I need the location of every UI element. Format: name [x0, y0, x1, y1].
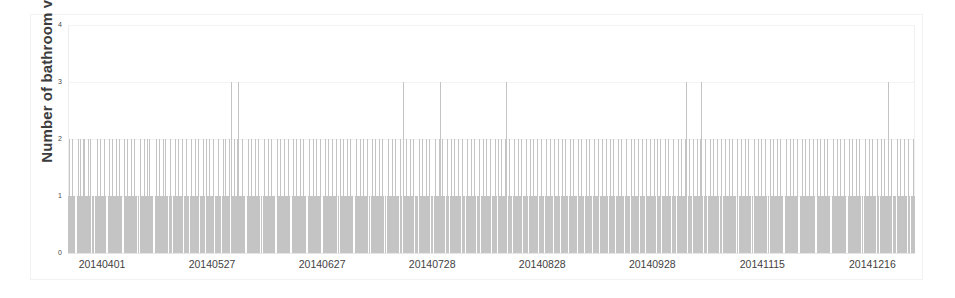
bar — [782, 196, 783, 253]
bar — [479, 139, 480, 253]
x-tick-label-20141216: 20141216 — [849, 258, 896, 270]
bar — [338, 196, 339, 253]
bar — [607, 196, 608, 253]
bar — [845, 196, 846, 253]
bar — [152, 196, 153, 253]
bar — [909, 196, 910, 253]
x-tick-label-20140928: 20140928 — [629, 258, 676, 270]
y-tick-label-1: 1 — [46, 192, 62, 199]
bar — [496, 196, 497, 253]
bar — [320, 139, 321, 253]
bar — [171, 196, 172, 253]
bar — [220, 196, 221, 253]
x-tick-label-20140828: 20140828 — [519, 258, 566, 270]
y-tick-label-4: 4 — [46, 21, 62, 28]
bar — [432, 196, 433, 253]
bar — [735, 196, 736, 253]
x-axis-tick-labels: 2014040120140527201406272014072820140828… — [68, 258, 915, 280]
bar — [766, 196, 767, 253]
bar — [543, 196, 544, 253]
x-tick-label-20140627: 20140627 — [299, 258, 346, 270]
bar — [814, 196, 815, 253]
bar — [105, 196, 106, 253]
bar — [686, 82, 687, 253]
bar — [655, 196, 656, 253]
bar — [797, 139, 798, 253]
bar — [244, 196, 245, 253]
bar — [718, 196, 719, 253]
bathroom-visits-chart-figure: Number of bathroom visits 01234 20140401… — [0, 0, 955, 298]
y-tick-label-3: 3 — [46, 78, 62, 85]
x-tick-label-20140728: 20140728 — [409, 258, 456, 270]
bar — [121, 196, 122, 253]
x-tick-label-20140401: 20140401 — [79, 258, 126, 270]
bar — [914, 196, 915, 253]
bar — [138, 196, 139, 253]
bar — [591, 196, 592, 253]
bar — [261, 196, 262, 253]
y-tick-label-0: 0 — [46, 249, 62, 256]
bar — [750, 196, 751, 253]
bar — [369, 196, 370, 253]
bar — [401, 196, 402, 253]
x-tick-label-20141115: 20141115 — [740, 258, 785, 270]
bar — [274, 196, 275, 253]
bar — [289, 196, 290, 253]
bar — [527, 196, 528, 253]
bar — [895, 196, 896, 253]
bar — [188, 196, 189, 253]
bar — [829, 196, 830, 253]
bar — [417, 196, 418, 253]
bar — [623, 196, 624, 253]
bar — [352, 196, 353, 253]
x-tick-label-20140527: 20140527 — [189, 258, 236, 270]
bar — [862, 196, 863, 253]
bar — [878, 196, 879, 253]
bar — [576, 196, 577, 253]
bar — [93, 196, 94, 253]
bar — [511, 196, 512, 253]
bar — [702, 196, 703, 253]
bar — [204, 196, 205, 253]
bar — [464, 196, 465, 253]
y-tick-label-2: 2 — [46, 135, 62, 142]
bar — [559, 196, 560, 253]
bar — [385, 196, 386, 253]
bar — [74, 196, 75, 253]
plot-area — [68, 25, 915, 253]
bar-series — [68, 25, 915, 253]
bar — [638, 139, 639, 253]
bar — [305, 196, 306, 253]
bar — [670, 196, 671, 253]
bar — [448, 196, 449, 253]
